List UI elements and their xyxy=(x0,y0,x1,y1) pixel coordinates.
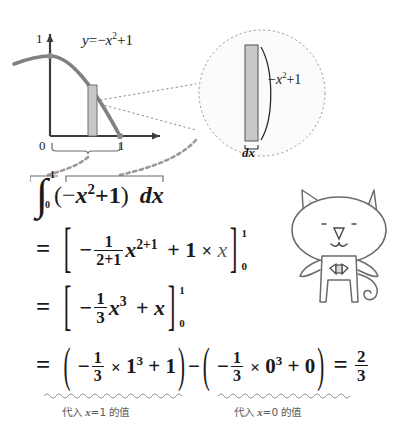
line4-minus-2: − xyxy=(217,354,229,378)
line4-fraction-1: 1 3 xyxy=(92,350,104,385)
domain-brace xyxy=(52,143,120,154)
curve-label-minus: − xyxy=(97,32,105,48)
line2-frac-denominator: 2+1 xyxy=(94,251,123,268)
cat-character xyxy=(282,182,400,322)
line4-minus: − xyxy=(78,354,90,378)
curve-function-label: y=−x2+1 xyxy=(82,32,133,49)
annotation-right: 代入 x=0 的值 xyxy=(234,404,301,419)
y-intercept-dot xyxy=(47,53,53,59)
magnifier-width-label: dx xyxy=(242,145,255,161)
line2-frac-numerator: 1 xyxy=(94,234,123,251)
annotation-left-prefix: 代入 xyxy=(62,406,82,418)
line2-minus: − xyxy=(80,237,93,262)
line3-open-bracket: [ xyxy=(64,275,72,339)
line4-close-paren: ) xyxy=(178,337,185,395)
line1-close-paren: ) xyxy=(121,182,129,208)
line2-times: × xyxy=(202,241,212,261)
x-axis-arrowhead xyxy=(152,133,160,140)
line3-variable-2: x xyxy=(154,295,165,320)
mag-plus-one: +1 xyxy=(286,72,301,87)
left-squiggle-underline xyxy=(44,392,184,400)
line3-plus: + xyxy=(136,295,149,320)
line1-variable: x xyxy=(76,182,88,208)
line4-open-paren: ( xyxy=(64,337,71,395)
cat-body xyxy=(320,256,358,302)
line2-limit-upper: 1 xyxy=(242,228,248,239)
result-denominator: 3 xyxy=(355,366,368,384)
line1-exponent: 2 xyxy=(88,181,95,197)
y-axis-label-one: 1 xyxy=(36,31,43,47)
line4-exponent-2: 3 xyxy=(276,353,283,368)
line3-exponent: 3 xyxy=(120,294,127,309)
line3-frac-denominator: 3 xyxy=(94,308,107,326)
annotation-right-suffix: 的值 xyxy=(281,406,301,418)
right-squiggle-underline xyxy=(218,392,353,400)
equation-line-3: = [ − 1 3 x3 + x] 1 0 xyxy=(36,290,185,327)
annotation-left: 代入 x=1 的值 xyxy=(62,404,129,419)
line4-exponent-1: 3 xyxy=(136,353,143,368)
cat-arm-left xyxy=(300,260,320,277)
line2-variable-2: x xyxy=(217,237,227,262)
line4-open-paren-2: ( xyxy=(203,337,210,395)
annotation-right-value: 0 xyxy=(271,406,278,418)
line1-minus: − xyxy=(62,182,76,208)
graph-axes xyxy=(50,34,160,136)
line3-variable: x xyxy=(109,295,120,320)
line2-fraction: 1 2+1 xyxy=(94,234,123,269)
curve-label-y: y xyxy=(82,32,89,48)
line4-equals-2: = xyxy=(334,351,348,378)
line2-variable: x xyxy=(125,237,136,262)
annotation-left-suffix: 的值 xyxy=(109,406,129,418)
integral-limits: 1 0 xyxy=(49,185,54,205)
line4-fraction-2: 1 3 xyxy=(231,350,243,385)
mag-minus: − xyxy=(268,72,276,87)
origin-label: 0 xyxy=(39,138,46,154)
line4-frac1-numerator: 1 xyxy=(92,350,104,367)
y-axis-arrowhead xyxy=(47,34,54,42)
integral-upper-limit: 1 xyxy=(50,170,55,180)
worksheet-page: 1 0 1 y=−x2+1 −x2+1 dx ∫ 1 0 (−x2+1) dx … xyxy=(0,0,405,434)
line4-addend-2: 0 xyxy=(305,354,316,378)
integral-symbol: ∫ xyxy=(36,170,48,219)
parabola-curve xyxy=(14,56,120,136)
line1-open-paren: ( xyxy=(54,182,62,208)
line3-frac-numerator: 1 xyxy=(94,290,107,308)
line3-close-bracket: ] xyxy=(168,275,176,339)
integral-lower-limit: 0 xyxy=(45,200,50,210)
line2-exponent: 2+1 xyxy=(136,237,157,252)
line4-times-2: × xyxy=(250,358,260,377)
magnifier-height-label: −x2+1 xyxy=(268,72,301,88)
cat-tail xyxy=(358,274,377,300)
line3-limit-upper: 1 xyxy=(179,285,185,296)
line4-addend-1: 1 xyxy=(165,354,176,378)
line4-frac2-numerator: 1 xyxy=(231,350,243,367)
line3-limit-lower: 0 xyxy=(179,318,185,329)
line3-equals: = xyxy=(36,293,50,320)
line4-subtract: − xyxy=(188,354,200,378)
annotation-left-value: 1 xyxy=(99,406,106,418)
line4-plus-2: + xyxy=(288,354,300,378)
line2-open-bracket: [ xyxy=(64,217,72,281)
line4-result-fraction: 2 3 xyxy=(355,348,368,385)
line1-differential: dx xyxy=(140,182,164,208)
line2-bracket-limits: 1 0 xyxy=(242,241,248,263)
equation-line-4: = ( − 1 3 × 13 + 1)−( − 1 3 × 03 + 0) = … xyxy=(36,348,370,385)
line3-bracket-limits: 1 0 xyxy=(179,298,185,320)
graph-strip xyxy=(88,85,97,136)
line3-fraction: 1 3 xyxy=(94,290,107,327)
result-numerator: 2 xyxy=(355,348,368,366)
line2-plus: + xyxy=(167,237,180,262)
line4-plus-1: + xyxy=(148,354,160,378)
line4-equals: = xyxy=(36,351,50,378)
equation-line-2: = [ − 1 2+1 x2+1 + 1 × x] 1 0 xyxy=(36,234,247,269)
line4-base-2: 0 xyxy=(265,354,276,378)
curve-label-equals: = xyxy=(89,32,97,48)
line2-limit-lower: 0 xyxy=(242,261,248,272)
line4-frac2-denominator: 3 xyxy=(231,367,243,384)
integral-figure xyxy=(0,12,405,177)
magnified-strip xyxy=(245,45,258,141)
line4-frac1-denominator: 3 xyxy=(92,367,104,384)
line1-plus-one: +1 xyxy=(95,182,121,208)
line2-close-bracket: ] xyxy=(230,217,238,281)
curve-label-plus-one: +1 xyxy=(117,32,133,48)
